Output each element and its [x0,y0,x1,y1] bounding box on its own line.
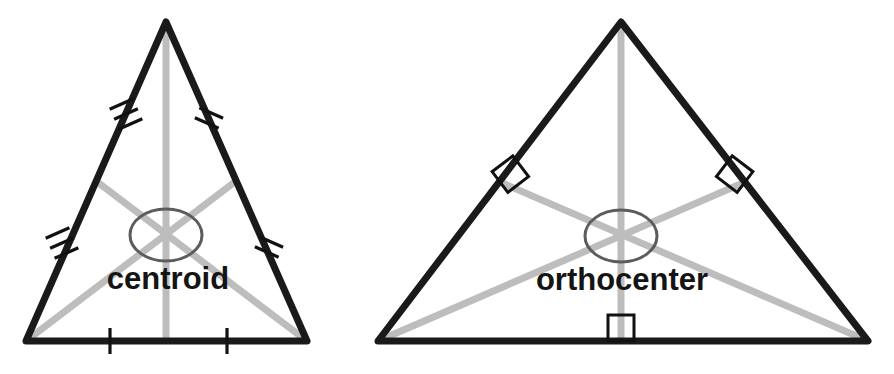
geometry-figure: centroid orthocenter [0,0,894,374]
tick-group-upper-left-side [110,99,143,130]
orthocenter-label: orthocenter [536,262,708,297]
figure-canvas: centroid orthocenter [0,0,894,374]
centroid-diagram: centroid [26,22,307,354]
tick-mark [46,228,70,239]
orthocenter-diagram: orthocenter [378,22,868,341]
centroid-label: centroid [107,261,229,296]
